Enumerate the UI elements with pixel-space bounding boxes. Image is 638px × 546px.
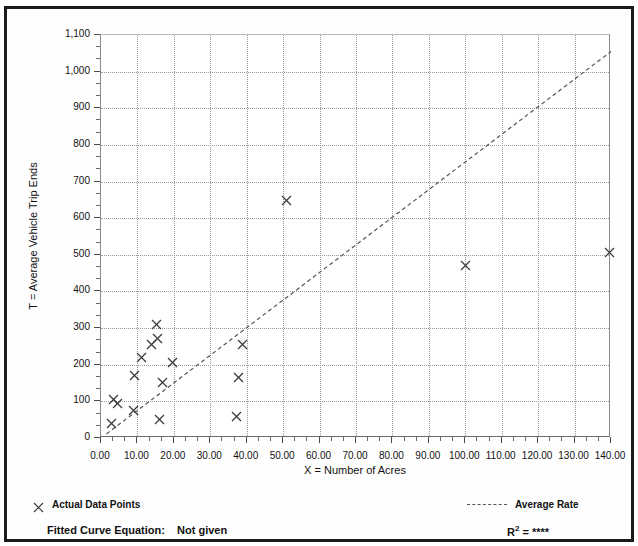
x-axis-tick [282, 437, 283, 443]
x-axis-tick [173, 437, 174, 443]
y-axis-minor-tick [96, 278, 100, 279]
x-axis-minor-tick [185, 437, 186, 441]
data-point-marker [281, 195, 292, 206]
scatter-chart: T = Average Vehicle Trip Ends 0100200300… [7, 9, 637, 545]
x-axis-minor-tick [258, 437, 259, 441]
y-axis-minor-tick [96, 95, 100, 96]
y-axis-tick-label: 100 [73, 395, 90, 405]
x-axis-tick [209, 437, 210, 443]
x-axis-minor-tick [404, 437, 405, 441]
y-axis-tick-label: 400 [73, 285, 90, 295]
data-point-marker [136, 352, 147, 363]
y-axis-minor-tick [96, 46, 100, 47]
y-axis-tick [94, 327, 100, 328]
data-point-marker [154, 414, 165, 425]
x-axis-minor-tick [331, 437, 332, 441]
chart-frame-border: T = Average Vehicle Trip Ends 0100200300… [4, 6, 634, 542]
y-axis-tick-label: 0 [84, 432, 90, 442]
x-axis-minor-tick [161, 437, 162, 441]
y-axis-tick-label: 900 [73, 102, 90, 112]
trendline-segment [106, 51, 611, 433]
data-point-marker [151, 319, 162, 330]
legend-entry-average-rate: Average Rate [467, 499, 579, 510]
y-axis-minor-tick [96, 242, 100, 243]
x-axis-minor-tick [234, 437, 235, 441]
data-point-marker [231, 411, 242, 422]
x-axis-minor-tick [149, 437, 150, 441]
x-marker-icon [33, 499, 44, 510]
y-axis-minor-tick [96, 83, 100, 84]
x-axis-tick [100, 437, 101, 443]
y-axis-minor-tick [96, 58, 100, 59]
data-point-marker [129, 370, 140, 381]
y-axis-minor-tick [96, 315, 100, 316]
x-axis-tick [610, 437, 611, 443]
x-axis-minor-tick [416, 437, 417, 441]
data-point-marker [128, 405, 139, 416]
x-axis-tick [136, 437, 137, 443]
y-axis-minor-tick [96, 352, 100, 353]
x-axis-tick [428, 437, 429, 443]
x-axis-minor-tick [452, 437, 453, 441]
fitted-curve-value: Not given [177, 524, 227, 536]
x-axis-minor-tick [379, 437, 380, 441]
legend-entry-actual-data-points: Actual Data Points [33, 499, 140, 510]
x-axis-minor-tick [586, 437, 587, 441]
legend-label-actual-data-points: Actual Data Points [52, 499, 140, 510]
plot-area [100, 34, 610, 437]
chart-footer: Fitted Curve Equation: Not given R2 = **… [7, 524, 637, 546]
x-axis-minor-tick [112, 437, 113, 441]
y-axis-minor-tick [96, 193, 100, 194]
y-axis-minor-tick [96, 388, 100, 389]
x-axis-minor-tick [294, 437, 295, 441]
r-squared-value: = **** [522, 526, 549, 538]
y-axis-tick-label: 500 [73, 249, 90, 259]
x-axis-title: X = Number of Acres [100, 464, 610, 476]
x-axis-tick [319, 437, 320, 443]
x-axis-tick [574, 437, 575, 443]
y-axis-title: T = Average Vehicle Trip Ends [23, 34, 43, 437]
data-point-marker [112, 398, 123, 409]
x-axis-minor-tick [513, 437, 514, 441]
data-point-marker [167, 357, 178, 368]
x-axis-minor-tick [549, 437, 550, 441]
x-axis-minor-tick [476, 437, 477, 441]
x-axis-title-text: X = Number of Acres [304, 464, 406, 476]
x-axis-minor-tick [270, 437, 271, 441]
y-axis-minor-tick [96, 229, 100, 230]
y-axis-tick [94, 34, 100, 35]
y-axis-minor-tick [96, 376, 100, 377]
x-axis-minor-tick [367, 437, 368, 441]
y-axis-tick [94, 181, 100, 182]
y-axis-title-text: T = Average Vehicle Trip Ends [27, 162, 39, 309]
y-axis-tick-label: 800 [73, 139, 90, 149]
y-axis-minor-tick [96, 168, 100, 169]
x-axis-minor-tick [197, 437, 198, 441]
y-axis-minor-tick [96, 132, 100, 133]
x-axis-tick-label: 140.00 [580, 451, 638, 461]
x-axis-minor-tick [440, 437, 441, 441]
y-axis-tick-label: 300 [73, 322, 90, 332]
x-axis-tick [537, 437, 538, 443]
x-axis-tick [464, 437, 465, 443]
data-point-marker [604, 247, 615, 258]
y-axis-tick-label: 700 [73, 176, 90, 186]
y-axis-tick-label: 600 [73, 212, 90, 222]
y-axis-minor-tick [96, 413, 100, 414]
y-axis-minor-tick [96, 156, 100, 157]
data-point-marker [152, 333, 163, 344]
y-axis-tick [94, 364, 100, 365]
x-axis-minor-tick [124, 437, 125, 441]
y-axis-tick [94, 71, 100, 72]
y-axis-tick [94, 290, 100, 291]
x-axis-minor-tick [343, 437, 344, 441]
y-axis-minor-tick [96, 205, 100, 206]
x-axis-tick [501, 437, 502, 443]
y-axis-tick [94, 217, 100, 218]
r-squared-symbol: R [507, 526, 515, 538]
y-axis-minor-tick [96, 266, 100, 267]
y-axis-minor-tick [96, 119, 100, 120]
y-axis-minor-tick [96, 339, 100, 340]
y-axis-tick-label: 200 [73, 359, 90, 369]
data-point-marker [233, 372, 244, 383]
